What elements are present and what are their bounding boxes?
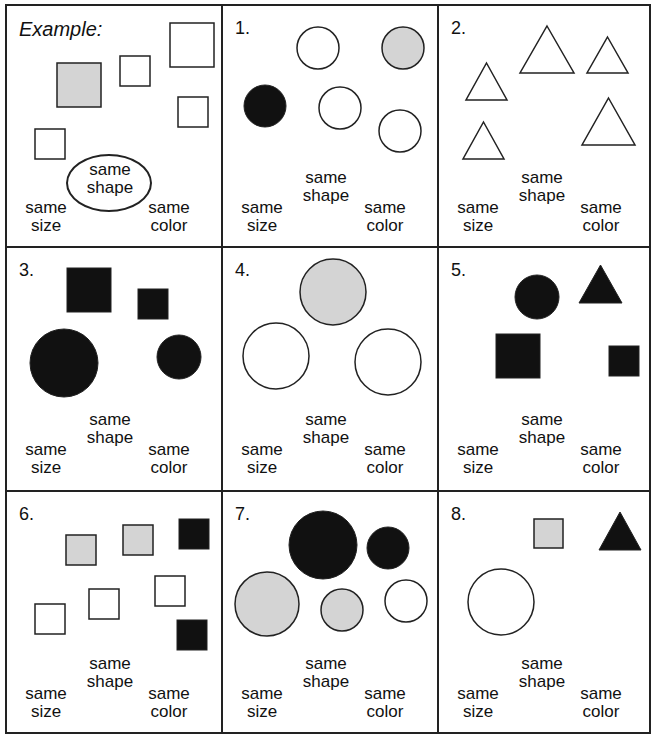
white-circle-shape	[319, 87, 361, 129]
label-line: same	[75, 655, 145, 673]
panel-5: 5.sameshapesamesizesamecolor	[439, 248, 649, 490]
label-line: same	[75, 161, 145, 179]
white-square-shape	[155, 576, 185, 606]
white-triangle-shape	[582, 98, 635, 145]
label-same-size: samesize	[443, 685, 513, 721]
panel-4: 4.sameshapesamesizesamecolor	[223, 248, 437, 490]
black-square-shape	[67, 268, 111, 312]
panel-7: 7.sameshapesamesizesamecolor	[223, 492, 437, 732]
label-line: same	[507, 169, 577, 187]
label-line: same	[11, 685, 81, 703]
label-line: color	[350, 703, 420, 721]
black-circle-shape	[157, 335, 201, 379]
label-line: same	[566, 441, 636, 459]
label-line: same	[11, 441, 81, 459]
white-triangle-shape	[463, 122, 504, 159]
white-square-shape	[178, 97, 208, 127]
black-triangle-shape	[579, 265, 622, 303]
panel-2: 2.sameshapesamesizesamecolor	[439, 6, 649, 246]
white-circle-shape	[385, 580, 427, 622]
white-square-shape	[170, 23, 214, 67]
white-circle-shape	[243, 323, 309, 389]
label-line: same	[75, 411, 145, 429]
panel-example: Example:sameshapesamesizesamecolor	[7, 6, 221, 246]
label-line: same	[566, 685, 636, 703]
label-line: same	[350, 441, 420, 459]
label-line: size	[227, 217, 297, 235]
label-line: size	[11, 217, 81, 235]
white-triangle-shape	[587, 37, 628, 73]
white-triangle-shape	[520, 26, 574, 73]
gray-circle-shape	[300, 259, 366, 325]
label-same-color: samecolor	[134, 685, 204, 721]
label-line: same	[443, 685, 513, 703]
label-line: shape	[75, 179, 145, 197]
panel-3: 3.sameshapesamesizesamecolor	[7, 248, 221, 490]
label-line: same	[11, 199, 81, 217]
white-circle-shape	[379, 110, 421, 152]
label-line: same	[443, 199, 513, 217]
label-line: same	[350, 199, 420, 217]
black-circle-shape	[367, 527, 409, 569]
label-line: same	[350, 685, 420, 703]
label-same-color: samecolor	[566, 199, 636, 235]
label-line: same	[227, 685, 297, 703]
black-square-shape	[496, 334, 540, 378]
label-line: size	[443, 459, 513, 477]
label-line: same	[291, 655, 361, 673]
label-same-color: samecolor	[134, 441, 204, 477]
label-same-size: samesize	[11, 199, 81, 235]
label-same-size: samesize	[227, 199, 297, 235]
gray-square-shape	[534, 519, 563, 548]
panel-6: 6.sameshapesamesizesamecolor	[7, 492, 221, 732]
gray-circle-shape	[235, 572, 299, 636]
black-square-shape	[609, 346, 639, 376]
white-square-shape	[120, 56, 150, 86]
label-same-color: samecolor	[350, 199, 420, 235]
label-same-size: samesize	[11, 685, 81, 721]
label-line: size	[227, 703, 297, 721]
label-line: size	[11, 703, 81, 721]
label-line: size	[11, 459, 81, 477]
white-square-shape	[35, 604, 65, 634]
white-circle-shape	[297, 27, 339, 69]
label-line: same	[507, 411, 577, 429]
black-square-shape	[177, 620, 207, 650]
label-line: same	[507, 655, 577, 673]
label-line: color	[566, 217, 636, 235]
black-circle-shape	[30, 329, 98, 397]
label-same-color: samecolor	[566, 685, 636, 721]
label-same-color: samecolor	[134, 199, 204, 235]
gray-square-shape	[66, 535, 96, 565]
label-line: same	[134, 199, 204, 217]
white-triangle-shape	[466, 63, 507, 100]
gray-square-shape	[57, 63, 101, 107]
white-square-shape	[35, 129, 65, 159]
black-circle-shape	[515, 275, 559, 319]
panel-8: 8.sameshapesamesizesamecolor	[439, 492, 649, 732]
label-same-color: samecolor	[350, 441, 420, 477]
panel-1: 1.sameshapesamesizesamecolor	[223, 6, 437, 246]
label-line: same	[134, 441, 204, 459]
label-line: color	[350, 217, 420, 235]
label-line: color	[134, 459, 204, 477]
label-line: color	[566, 459, 636, 477]
label-line: color	[134, 217, 204, 235]
label-line: size	[443, 703, 513, 721]
label-same-size: samesize	[443, 441, 513, 477]
label-line: same	[227, 441, 297, 459]
label-line: size	[227, 459, 297, 477]
black-square-shape	[179, 519, 209, 549]
label-same-color: samecolor	[566, 441, 636, 477]
label-line: same	[291, 411, 361, 429]
gray-circle-shape	[321, 589, 363, 631]
black-circle-shape	[244, 85, 286, 127]
label-same-size: samesize	[227, 441, 297, 477]
label-same-size: samesize	[11, 441, 81, 477]
label-same-size: samesize	[227, 685, 297, 721]
label-same-color: samecolor	[350, 685, 420, 721]
label-line: same	[443, 441, 513, 459]
label-line: same	[291, 169, 361, 187]
label-line: same	[566, 199, 636, 217]
label-same-size: samesize	[443, 199, 513, 235]
